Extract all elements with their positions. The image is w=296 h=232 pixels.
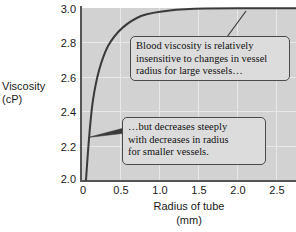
annotation-line: radius for large vessels… [136,65,284,78]
y-axis-title-line2: (cP) [2,93,45,106]
gridline-vertical [276,8,277,180]
gridline-vertical [120,8,121,180]
y-tick-label: 2.4 [36,106,76,118]
y-axis-title-line1: Viscosity [2,80,45,93]
x-tick-label: 1.5 [184,184,214,196]
annotation-callout-lower: …but decreases steeply with decreases in… [122,117,266,165]
x-axis-title: Radius of tube (mm) [82,199,296,227]
x-tick-label: 0 [68,184,98,196]
viscosity-vs-radius-figure: 3.0 2.8 2.6 2.4 2.2 2.0 0 0.5 1.0 1.5 2.… [0,0,296,232]
annotation-line: Blood viscosity is relatively [136,40,284,53]
x-axis-title-line2: (mm) [82,213,296,227]
y-tick-label: 2.2 [36,141,76,153]
x-tick-label: 0.5 [106,184,136,196]
y-axis-title: Viscosity (cP) [2,80,45,106]
x-axis-title-line1: Radius of tube [82,199,296,213]
annotation-line: with decreases in radius [128,134,260,147]
x-axis-line [80,180,296,182]
y-tick-label: 2.8 [36,37,76,49]
x-tick-label: 2.5 [262,184,292,196]
y-tick-label: 3.0 [36,3,76,15]
gridline-horizontal [82,111,296,112]
annotation-callout-upper: Blood viscosity is relatively insensitiv… [130,36,290,81]
x-tick-label: 2.0 [223,184,253,196]
y-axis-line [80,6,82,182]
x-tick-label: 1.0 [145,184,175,196]
annotation-line: insensitive to changes in vessel [136,53,284,66]
annotation-line: for smaller vessels. [128,146,260,159]
annotation-line: …but decreases steeply [128,121,260,134]
